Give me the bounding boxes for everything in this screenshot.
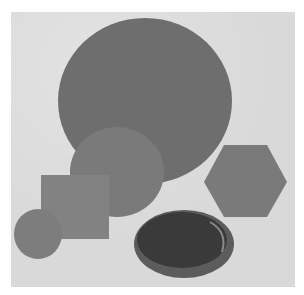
dish-inner	[137, 212, 227, 268]
hexagon-plate	[204, 145, 287, 217]
photograph	[11, 12, 295, 287]
small-disc	[14, 209, 62, 259]
shapes-illustration	[11, 12, 295, 287]
